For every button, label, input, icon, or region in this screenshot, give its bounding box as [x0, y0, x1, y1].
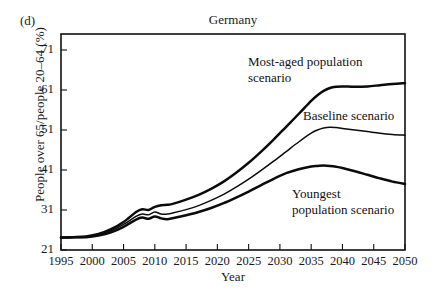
x-tick-label: 2020 [205, 254, 230, 268]
x-tick-label: 2015 [174, 254, 199, 268]
series-annotation: Youngestpopulation scenario [292, 186, 394, 217]
y-tick-label: 71 [41, 41, 54, 56]
y-tick-group: 213141516171 [41, 41, 67, 256]
y-tick-label: 41 [41, 161, 54, 176]
y-tick-label: 31 [41, 201, 54, 216]
annotation-line: Youngest [292, 186, 341, 201]
x-tick-label: 2050 [393, 254, 418, 268]
x-tick-label: 2035 [299, 254, 324, 268]
x-tick-label: 2030 [267, 254, 292, 268]
annotation-line: Most-aged population [248, 54, 363, 69]
series-annotation: Baseline scenario [303, 108, 394, 123]
annotation-group: Most-aged populationscenarioBaseline sce… [248, 54, 394, 217]
y-tick-label: 61 [41, 81, 54, 96]
x-tick-label: 2025 [236, 254, 261, 268]
annotation-line: scenario [248, 70, 291, 85]
chart-figure: (d) Germany People over 65/people 20–64 … [0, 0, 438, 297]
y-tick-label: 51 [41, 121, 54, 136]
series-line: Baseline scenario [61, 127, 405, 237]
annotation-line: population scenario [292, 202, 394, 217]
x-tick-label: 2005 [111, 254, 136, 268]
x-tick-group: 1995200020052010201520202025203020352040… [49, 244, 418, 268]
annotation-line: Baseline scenario [303, 108, 394, 123]
series-annotation: Most-aged populationscenario [248, 54, 363, 85]
x-tick-label: 2010 [142, 254, 167, 268]
plot-area: 213141516171 199520002005201020152020202… [0, 0, 438, 297]
x-tick-label: 1995 [49, 254, 74, 268]
x-tick-label: 2045 [361, 254, 386, 268]
x-tick-label: 2000 [80, 254, 105, 268]
x-tick-label: 2040 [330, 254, 355, 268]
